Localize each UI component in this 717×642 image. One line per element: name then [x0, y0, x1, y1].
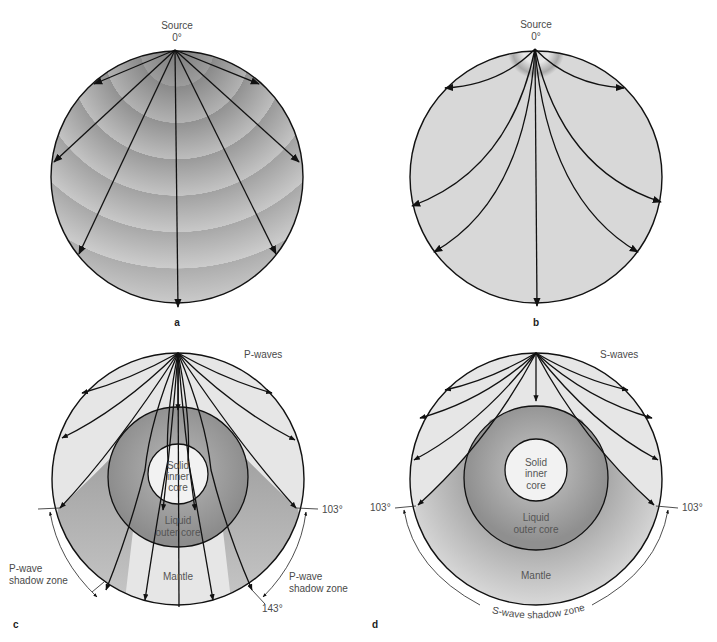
panel-d: S-waves Solid inner core Liquid outer co… [370, 349, 703, 630]
source-angle: 0° [172, 32, 182, 43]
shadow-left-label-1: P-wave [9, 563, 43, 574]
panel-letter-b: b [533, 317, 539, 328]
panel-letter-d: d [372, 619, 378, 630]
mantle-label: Mantle [521, 570, 551, 581]
outer-core-label-2: outer core [155, 527, 200, 538]
angle-103: 103° [322, 504, 343, 515]
inner-core-label-2: inner [167, 471, 190, 482]
outer-core-label-2: outer core [513, 524, 558, 535]
seismic-wave-figure: Source 0° a Source 0° b [0, 0, 717, 642]
outer-core-label-1: Liquid [165, 515, 192, 526]
panel-c: P-waves Solid inner core Liquid outer co… [9, 349, 348, 630]
inner-core-label-1: Solid [525, 457, 547, 468]
panel-b: Source 0° b [410, 19, 662, 328]
angle-143: 143° [262, 603, 283, 614]
wave-type-label: P-waves [244, 349, 282, 360]
inner-core-label-3: core [526, 480, 546, 491]
panel-a: Source 0° a [51, 20, 303, 328]
source-angle: 0° [531, 31, 541, 42]
panel-letter-a: a [174, 317, 180, 328]
source-label: Source [520, 19, 552, 30]
inner-core-label-3: core [168, 482, 188, 493]
angle-103-right: 103° [682, 502, 703, 513]
wave-type-label: S-waves [600, 349, 638, 360]
outer-core-label-1: Liquid [523, 512, 550, 523]
angle-103-left: 103° [370, 502, 391, 513]
shadow-right-label-2: shadow zone [289, 583, 348, 594]
source-label: Source [161, 20, 193, 31]
inner-core-label-2: inner [525, 468, 548, 479]
panel-letter-c: c [13, 619, 19, 630]
mantle-label: Mantle [163, 571, 193, 582]
shadow-right-label-1: P-wave [289, 571, 323, 582]
shadow-left-label-2: shadow zone [9, 575, 68, 586]
inner-core-label-1: Solid [167, 460, 189, 471]
